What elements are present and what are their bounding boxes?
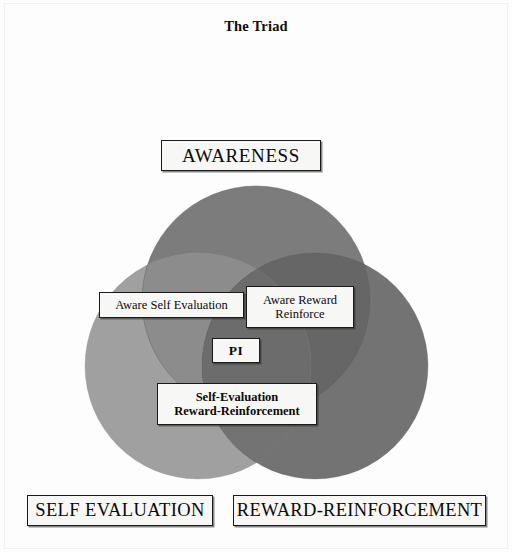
label-self-evaluation-reward-reinforcement: Self-Evaluation Reward-Reinforcement — [157, 383, 317, 425]
label-pi: PI — [212, 338, 260, 363]
label-self-evaluation: SELF EVALUATION — [27, 495, 213, 526]
label-reward-reinforcement: REWARD-REINFORCEMENT — [233, 495, 486, 526]
label-aware-reward-reinforce: Aware Reward Reinforce — [246, 286, 354, 328]
label-aware-self-evaluation: Aware Self Evaluation — [99, 292, 244, 318]
label-awareness: AWARENESS — [161, 140, 321, 171]
diagram-canvas: The Triad — [0, 0, 512, 552]
venn-diagram — [0, 0, 512, 552]
